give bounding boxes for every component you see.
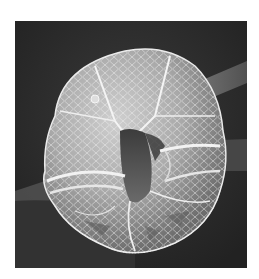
- dinoflagellate-micrograph: [15, 21, 247, 268]
- dinoflagellate-cell: [44, 49, 226, 253]
- pore: [91, 95, 99, 103]
- micrograph-frame: [15, 21, 247, 268]
